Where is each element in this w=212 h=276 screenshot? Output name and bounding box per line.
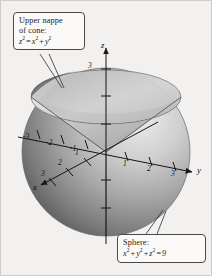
sphere-callout: Sphere: x2+y2+z2=9 [117,234,206,263]
x-tick-3: 3 [41,169,45,178]
x-axis-label: x [33,182,37,192]
sph-eq-rhs: 9 [162,249,166,258]
figure-page: 3 -3 -2 -1 1 2 3 1 2 3 z y x Upper nappe… [0,0,212,276]
callout-sphere-line1: Sphere: [123,238,201,248]
eq-equals: = [25,37,32,46]
y-tick-1: 1 [123,159,127,168]
z-tick-3: 3 [88,61,92,70]
z-axis-label: z [101,40,104,50]
y-axis-label: y [197,165,201,175]
x-tick-2: 2 [58,158,62,167]
upper-nappe-callout: Upper nappe of cone: z2=x2+y2 [13,12,85,50]
eq-y-exp: 2 [49,35,52,41]
y-neg-tick-3: -3 [23,132,29,141]
callout-sphere-equation: x2+y2+z2=9 [123,249,201,259]
callout-cone-equation: z2=x2+y2 [19,37,80,47]
callout-cone-line1: Upper nappe [19,16,80,26]
y-neg-tick-2: -2 [46,138,52,147]
y-tick-2: 2 [147,164,151,173]
y-tick-3: 3 [171,169,175,178]
x-tick-1: 1 [75,148,79,157]
eq-plus: + [38,37,45,46]
